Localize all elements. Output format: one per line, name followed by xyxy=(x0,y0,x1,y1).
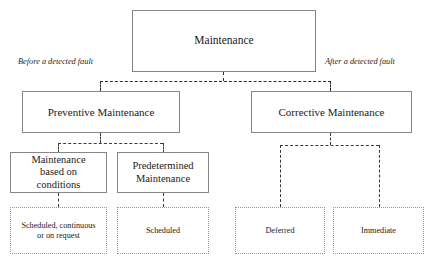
edge-label-before-fault: Before a detected fault xyxy=(18,57,93,66)
outcome-cbm-line-1: Scheduled, continuous xyxy=(21,221,95,230)
outcome-cbm-line-2: or on request xyxy=(37,231,80,240)
node-condition-based-maintenance-label: Maintenance based on conditions xyxy=(31,154,85,191)
node-predetermined-maintenance-label: Predetermined Maintenance xyxy=(132,160,193,185)
node-predetermined-maintenance: Predetermined Maintenance xyxy=(117,152,209,193)
node-outcome-scheduled: Scheduled xyxy=(117,207,209,254)
connector-corrective-drop-immediate xyxy=(379,145,380,207)
node-outcome-scheduled-label: Scheduled xyxy=(146,226,180,236)
connector-corrective-stub xyxy=(330,133,331,145)
cbm-line-1: Maintenance xyxy=(31,154,85,165)
edge-label-after-fault: After a detected fault xyxy=(325,57,395,66)
node-outcome-scheduled-continuous-or-on-request: Scheduled, continuous or on request xyxy=(10,207,107,254)
node-corrective-maintenance: Corrective Maintenance xyxy=(251,91,412,133)
connector-tier2-drop-right xyxy=(330,81,331,91)
connector-preventive-stub xyxy=(100,133,101,143)
pdm-line-1: Predetermined xyxy=(132,160,193,171)
node-maintenance-root: Maintenance xyxy=(132,10,316,72)
connector-preventive-bus xyxy=(58,143,163,144)
connector-root-stub xyxy=(223,72,224,81)
cbm-line-3: conditions xyxy=(37,179,81,190)
node-outcome-immediate-label: Immediate xyxy=(361,226,396,236)
node-corrective-maintenance-label: Corrective Maintenance xyxy=(279,106,385,119)
node-preventive-maintenance-label: Preventive Maintenance xyxy=(48,106,155,119)
node-outcome-immediate: Immediate xyxy=(333,207,424,254)
node-outcome-deferred: Deferred xyxy=(235,207,325,254)
node-outcome-deferred-label: Deferred xyxy=(265,226,294,236)
node-condition-based-maintenance: Maintenance based on conditions xyxy=(10,152,107,193)
cbm-line-2: based on xyxy=(40,166,77,177)
pdm-line-2: Maintenance xyxy=(136,173,190,184)
node-maintenance-root-label: Maintenance xyxy=(194,34,253,48)
node-outcome-scheduled-continuous-label: Scheduled, continuous or on request xyxy=(21,221,95,240)
maintenance-taxonomy-diagram: Maintenance Before a detected fault Afte… xyxy=(0,0,433,264)
connector-tier2-drop-left xyxy=(100,81,101,91)
node-preventive-maintenance: Preventive Maintenance xyxy=(22,91,180,133)
connector-corrective-drop-deferred xyxy=(280,145,281,207)
connector-pdm-to-outcome xyxy=(163,193,164,207)
connector-corrective-bus xyxy=(280,145,379,146)
connector-tier2-bus xyxy=(100,81,331,82)
connector-cbm-to-outcome xyxy=(58,193,59,207)
